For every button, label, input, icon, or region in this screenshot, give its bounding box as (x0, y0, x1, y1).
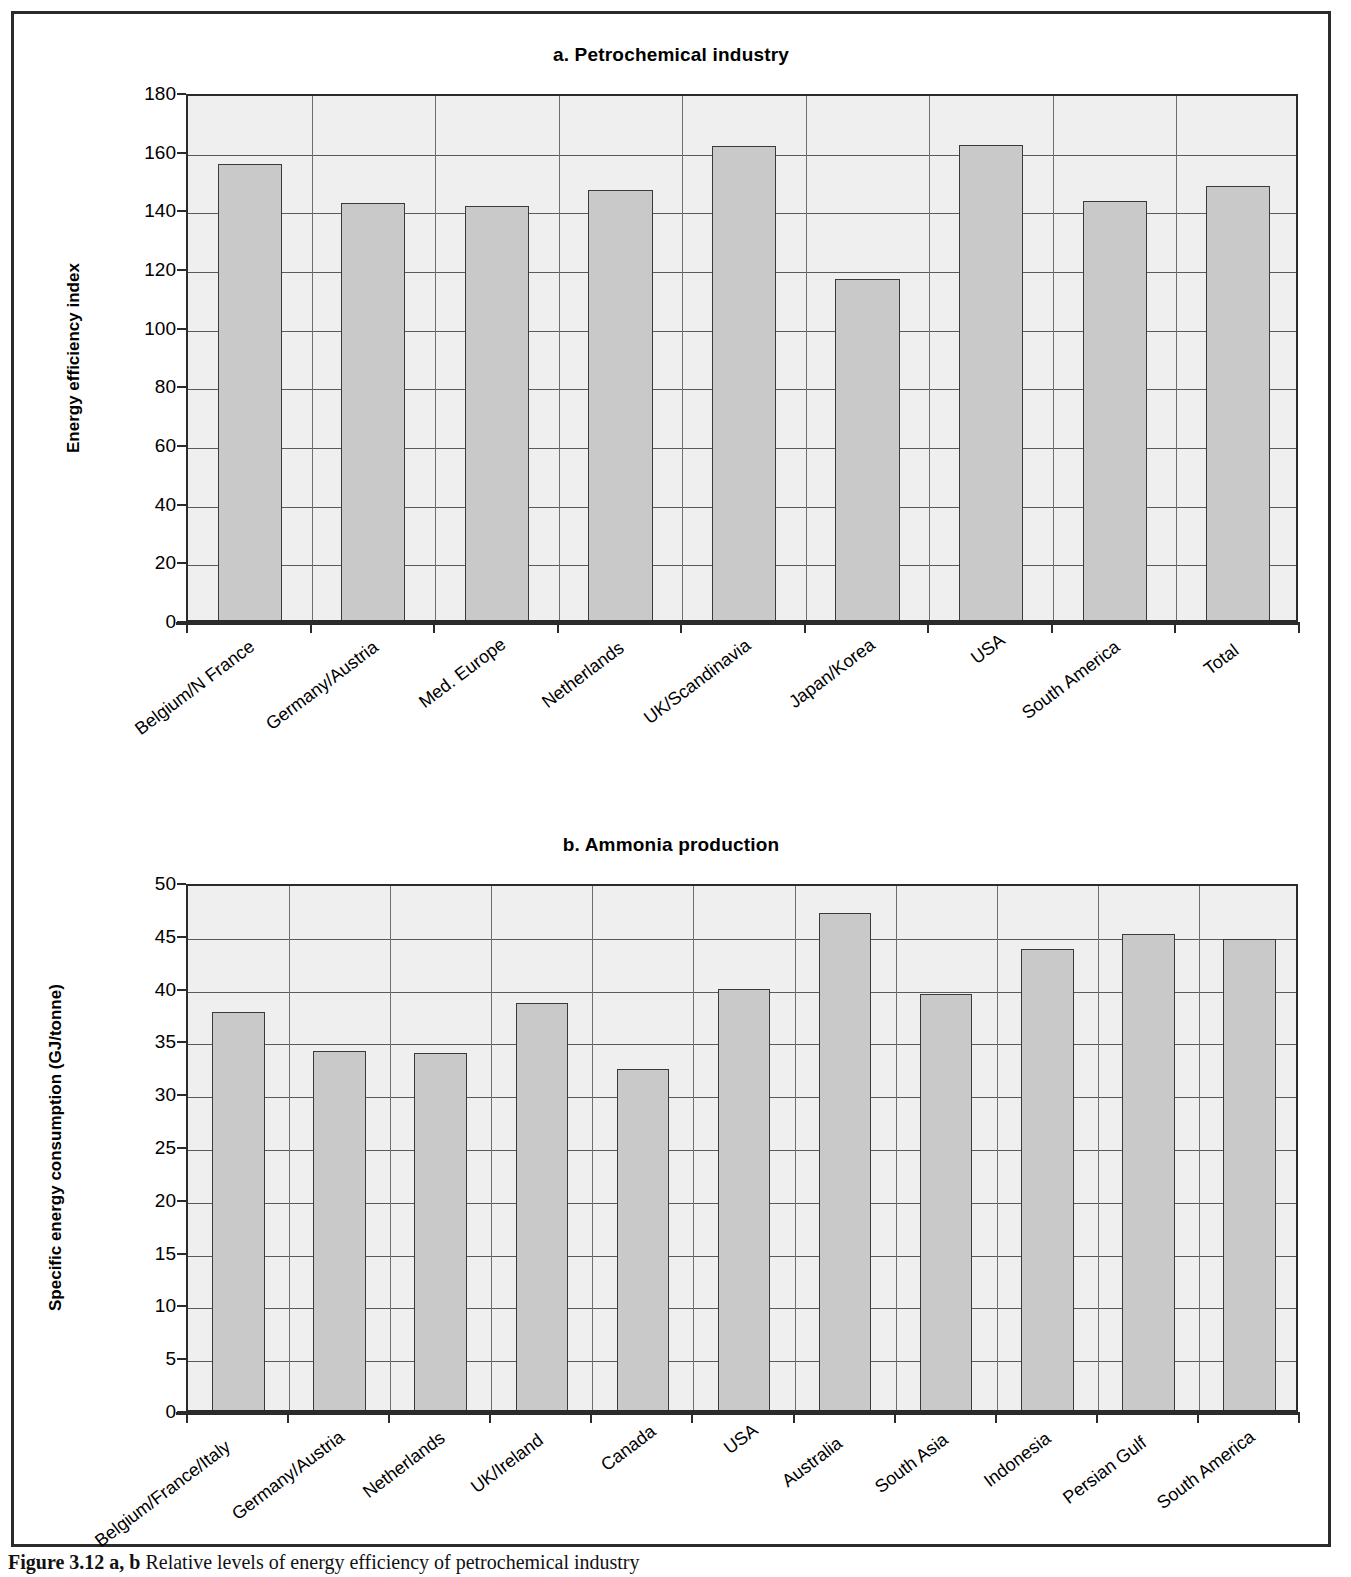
chart-title-a: a. Petrochemical industry (14, 44, 1328, 66)
y-axis-tick-mark (177, 1305, 186, 1307)
category-separator (491, 886, 492, 1410)
x-axis-tick-mark (489, 1412, 491, 1423)
x-axis-tick-label: Germany/Austria (228, 1427, 348, 1525)
x-axis-tick-mark (1051, 622, 1053, 633)
x-axis-tick-mark (186, 1412, 188, 1423)
x-axis-tick-mark (310, 622, 312, 633)
bar (341, 203, 405, 620)
bar (212, 1012, 265, 1410)
x-axis-tick-mark (1298, 622, 1300, 633)
bar (465, 206, 529, 620)
x-axis-tick-label: Med. Europe (415, 634, 510, 713)
y-axis-tick-mark (177, 269, 186, 271)
y-axis-tick-label: 0 (165, 611, 176, 633)
figure-caption-text: Relative levels of energy efficiency of … (145, 1551, 639, 1573)
x-axis-tick-mark (557, 622, 559, 633)
x-axis-tick-mark (186, 622, 188, 633)
y-axis-tick-mark (177, 445, 186, 447)
y-axis-tick-label: 20 (155, 552, 176, 574)
x-axis-tick-mark (590, 1412, 592, 1423)
category-separator (682, 96, 683, 620)
x-axis-tick-mark (927, 622, 929, 633)
x-axis-tick-label: Belgium/France/Italy (91, 1436, 235, 1552)
x-axis-tick-mark (804, 622, 806, 633)
bar (712, 146, 776, 620)
bar (1083, 201, 1147, 620)
y-axis-ticks: 020406080100120140160180 (140, 94, 186, 622)
x-axis-tick-label: Belgium/N France (131, 637, 259, 740)
x-axis-line (176, 622, 1298, 625)
y-axis-tick-label: 35 (155, 1031, 176, 1053)
y-axis-tick-label: 120 (144, 259, 176, 281)
y-axis-tick-mark (177, 1094, 186, 1096)
x-axis-tick-mark (793, 1412, 795, 1423)
bar (516, 1003, 569, 1410)
y-axis-tick-mark (177, 936, 186, 938)
category-separator (592, 886, 593, 1410)
bar (1021, 949, 1074, 1410)
x-axis-tick-mark (433, 622, 435, 633)
x-axis-tick-label: USA (720, 1420, 762, 1459)
x-axis-tick-mark (1174, 622, 1176, 633)
y-axis-tick-label: 0 (165, 1401, 176, 1423)
y-axis-tick-mark (177, 328, 186, 330)
category-separator (896, 886, 897, 1410)
y-axis-label: Specific energy consumption (GJ/tonne) (46, 884, 66, 1412)
category-separator (435, 96, 436, 620)
y-axis-tick-label: 10 (155, 1295, 176, 1317)
y-axis-tick-mark (177, 883, 186, 885)
figure-caption-sublabel: a, b (109, 1551, 140, 1573)
x-axis-tick-mark (1096, 1412, 1098, 1423)
x-axis-tick-label: Persian Gulf (1059, 1432, 1151, 1508)
chart-title-b: b. Ammonia production (14, 834, 1328, 856)
category-separator (1199, 886, 1200, 1410)
y-axis-tick-mark (177, 1041, 186, 1043)
x-axis-tick-label: Netherlands (538, 638, 628, 713)
y-axis-tick-label: 60 (155, 435, 176, 457)
x-axis-tick-label: Japan/Korea (785, 635, 879, 713)
y-axis-tick-label: 80 (155, 376, 176, 398)
category-separator (1098, 886, 1099, 1410)
x-axis-tick-label: Netherlands (359, 1428, 449, 1503)
y-axis-tick-mark (177, 152, 186, 154)
y-axis-tick-label: 100 (144, 318, 176, 340)
category-separator (806, 96, 807, 620)
bar (218, 164, 282, 620)
y-axis-tick-mark (177, 562, 186, 564)
x-axis-tick-mark (388, 1412, 390, 1423)
x-axis-tick-mark (1197, 1412, 1199, 1423)
x-axis-tick-label: Indonesia (980, 1428, 1055, 1492)
chart-panel-petrochemical-industry: a. Petrochemical industry Energy efficie… (14, 44, 1328, 744)
figure-caption: Figure 3.12 a, b Relative levels of ener… (8, 1551, 1348, 1577)
y-axis-tick-label: 15 (155, 1243, 176, 1265)
bar (588, 190, 652, 620)
y-axis-tick-label: 40 (155, 979, 176, 1001)
category-separator (312, 96, 313, 620)
bar (1122, 934, 1175, 1410)
y-axis-tick-label: 20 (155, 1190, 176, 1212)
category-separator (997, 886, 998, 1410)
chart-panel-ammonia-production: b. Ammonia production Specific energy co… (14, 834, 1328, 1534)
x-axis-tick-label: USA (967, 630, 1009, 669)
bar (1206, 186, 1270, 620)
bar (617, 1069, 670, 1410)
y-axis-tick-mark (177, 210, 186, 212)
x-axis-tick-label: Total (1200, 640, 1243, 680)
x-axis-tick-mark (995, 1412, 997, 1423)
category-separator (929, 96, 930, 620)
y-axis-tick-label: 140 (144, 200, 176, 222)
y-axis-label: Energy efficiency index (64, 94, 84, 622)
x-axis-line (176, 1412, 1298, 1415)
x-axis-tick-label: South America (1018, 637, 1124, 724)
x-axis-tick-mark (680, 622, 682, 633)
plot-box (186, 94, 1298, 622)
category-separator (693, 886, 694, 1410)
x-axis-tick-mark (1298, 1412, 1300, 1423)
y-axis-tick-label: 50 (155, 873, 176, 895)
y-axis-tick-mark (177, 1200, 186, 1202)
category-separator (1053, 96, 1054, 620)
bar (313, 1051, 366, 1410)
x-axis-tick-label: Canada (597, 1421, 660, 1476)
bar (718, 989, 771, 1410)
category-separator (390, 886, 391, 1410)
